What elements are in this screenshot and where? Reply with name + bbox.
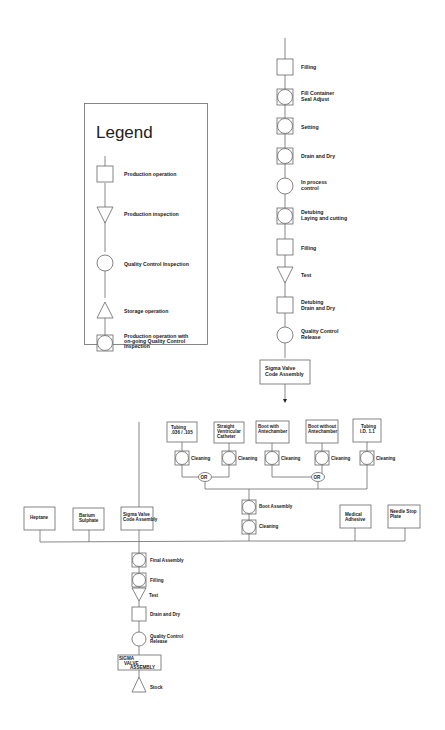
triangle-up-icon bbox=[132, 677, 146, 692]
svg-text:Drain and Dry: Drain and Dry bbox=[150, 612, 181, 617]
final-product-sigma-valve-assembly: SIGMA VALVE ASSEMBLY bbox=[118, 655, 161, 670]
or-junction-2: OR bbox=[312, 473, 325, 482]
cleaning-step-3: Cleaning bbox=[265, 451, 301, 465]
svg-text:Test: Test bbox=[149, 593, 159, 598]
svg-text:Catheter: Catheter bbox=[217, 434, 236, 439]
component-straight-ventricular-catheter: Straight Ventricular Catheter bbox=[214, 422, 244, 443]
square-icon bbox=[277, 297, 293, 313]
arrow-down-icon bbox=[283, 399, 287, 403]
circle-icon bbox=[277, 178, 293, 194]
svg-text:Filling: Filling bbox=[150, 578, 164, 583]
component-tubing-036-105: Tubing .036 / .105 bbox=[167, 422, 197, 442]
main-collector-line bbox=[40, 541, 405, 542]
triangle-up-icon bbox=[97, 302, 113, 318]
upper-step-filling-2: Filling bbox=[277, 239, 316, 255]
circle-icon bbox=[132, 632, 146, 646]
legend-item-quality-control-inspection: Quality Control Inspection bbox=[97, 255, 189, 271]
svg-text:Quality Control Inspection: Quality Control Inspection bbox=[124, 261, 189, 267]
cleaning-step-4: Cleaning bbox=[315, 451, 351, 465]
svg-text:Seal Adjust: Seal Adjust bbox=[301, 96, 329, 102]
svg-text:Release: Release bbox=[301, 334, 321, 340]
svg-text:Production inspection: Production inspection bbox=[124, 211, 179, 217]
svg-text:I.D. 1.1: I.D. 1.1 bbox=[360, 429, 375, 434]
svg-text:OR: OR bbox=[201, 475, 209, 480]
square-icon bbox=[277, 59, 293, 75]
triangle-down-icon bbox=[132, 588, 146, 601]
upper-process-chain: Filling Fill Container Seal Adjust Setti… bbox=[260, 38, 347, 403]
final-step-final-assembly: Final Assembly bbox=[132, 553, 184, 567]
svg-text:Cleaning: Cleaning bbox=[259, 524, 279, 529]
triangle-down-icon bbox=[97, 207, 113, 223]
svg-text:Laying and cutting: Laying and cutting bbox=[301, 215, 347, 221]
svg-text:Inspection: Inspection bbox=[124, 343, 150, 349]
component-boot-without-antechamber: Boot without Antechamber bbox=[306, 420, 338, 443]
circle-icon bbox=[97, 255, 113, 271]
cleaning-step-1: Cleaning bbox=[175, 451, 211, 465]
legend-item-production-operation-with-qc: Production operation with on-going Quali… bbox=[97, 333, 188, 351]
svg-text:ASSEMBLY: ASSEMBLY bbox=[130, 665, 155, 670]
svg-text:Production operation: Production operation bbox=[124, 171, 176, 177]
svg-text:Final Assembly: Final Assembly bbox=[150, 558, 184, 563]
cleaning-step-5: Cleaning bbox=[360, 451, 396, 465]
svg-text:Drain and Dry: Drain and Dry bbox=[301, 153, 335, 159]
or-junction-1: OR bbox=[199, 473, 212, 482]
upper-step-detubing-laying-and-cutting: Detubing Laying and cutting bbox=[277, 208, 347, 224]
svg-text:Cleaning: Cleaning bbox=[238, 456, 258, 461]
svg-text:Release: Release bbox=[150, 639, 168, 644]
svg-text:control: control bbox=[301, 185, 319, 191]
upper-step-detubing-drain-and-dry: Detubing Drain and Dry bbox=[277, 297, 335, 313]
svg-text:Cleaning: Cleaning bbox=[376, 456, 396, 461]
svg-text:Sulphate: Sulphate bbox=[79, 518, 99, 523]
component-tubing-id-1-1: Tubing I.D. 1.1 bbox=[353, 419, 381, 442]
cleaning-step-2: Cleaning bbox=[222, 451, 258, 465]
upper-step-in-process-control: In process control bbox=[277, 178, 327, 194]
svg-text:Cleaning: Cleaning bbox=[281, 456, 301, 461]
boot-cleaning-step: Cleaning bbox=[242, 520, 279, 534]
legend-title: Legend bbox=[96, 123, 153, 142]
input-needle-stop-plate: Needle Stop Plate bbox=[388, 505, 420, 528]
svg-text:Boot Assembly: Boot Assembly bbox=[259, 504, 293, 509]
input-medical-adhesive: Medical Adhesive bbox=[340, 505, 371, 528]
final-step-quality-control-release: Quality Control Release bbox=[132, 632, 183, 646]
svg-text:Stock: Stock bbox=[150, 685, 163, 690]
square-icon bbox=[132, 607, 146, 621]
boot-assembly-step: Boot Assembly bbox=[242, 500, 293, 514]
svg-text:Heptane: Heptane bbox=[30, 515, 49, 520]
svg-text:Adhesive: Adhesive bbox=[345, 517, 366, 522]
svg-text:Test: Test bbox=[301, 272, 312, 278]
input-heptane: Heptane bbox=[24, 507, 55, 530]
svg-text:Cleaning: Cleaning bbox=[331, 456, 351, 461]
svg-text:Drain and Dry: Drain and Dry bbox=[301, 305, 335, 311]
final-storage-stock: Stock bbox=[132, 677, 163, 692]
upper-output-sigma-valve-code-assembly: Sigma Valve Code Assembly bbox=[260, 360, 310, 384]
svg-text:Setting: Setting bbox=[301, 124, 319, 130]
svg-text:Cleaning: Cleaning bbox=[191, 456, 211, 461]
upper-step-setting: Setting bbox=[277, 118, 319, 134]
upper-step-fill-container-seal-adjust: Fill Container Seal Adjust bbox=[277, 89, 334, 105]
upper-step-test: Test bbox=[277, 267, 312, 283]
legend-item-production-operation: Production operation bbox=[97, 166, 176, 182]
svg-text:Code Assembly: Code Assembly bbox=[265, 371, 304, 377]
legend: Legend Production operation Production i… bbox=[85, 104, 208, 352]
svg-text:Antechamber: Antechamber bbox=[258, 429, 288, 434]
square-icon bbox=[277, 239, 293, 255]
svg-text:Code Assembly: Code Assembly bbox=[123, 517, 158, 522]
square-icon bbox=[97, 166, 113, 182]
input-sigma-valve-code-assembly: Sigma Valve Code Assembly bbox=[121, 507, 158, 530]
upper-step-quality-control-release: Quality Control Release bbox=[277, 327, 339, 343]
final-step-filling: Filling bbox=[132, 573, 164, 587]
upper-step-drain-and-dry: Drain and Dry bbox=[277, 148, 335, 164]
input-barium-sulphate: Barium Sulphate bbox=[73, 508, 104, 530]
final-step-drain-and-dry: Drain and Dry bbox=[132, 607, 181, 621]
final-process-chain: Final Assembly Filling Test Drain and Dr… bbox=[118, 553, 184, 692]
svg-text:Filling: Filling bbox=[301, 64, 316, 70]
svg-text:Plate: Plate bbox=[390, 514, 401, 519]
legend-item-production-inspection: Production inspection bbox=[97, 207, 179, 223]
process-flow-diagram: Legend Production operation Production i… bbox=[0, 0, 445, 730]
svg-text:Storage operation: Storage operation bbox=[124, 308, 168, 314]
circle-icon bbox=[277, 327, 293, 343]
svg-text:Filling: Filling bbox=[301, 245, 316, 251]
svg-text:.036 / .105: .036 / .105 bbox=[171, 430, 193, 435]
final-step-test: Test bbox=[132, 588, 159, 601]
upper-step-filling: Filling bbox=[277, 59, 316, 75]
